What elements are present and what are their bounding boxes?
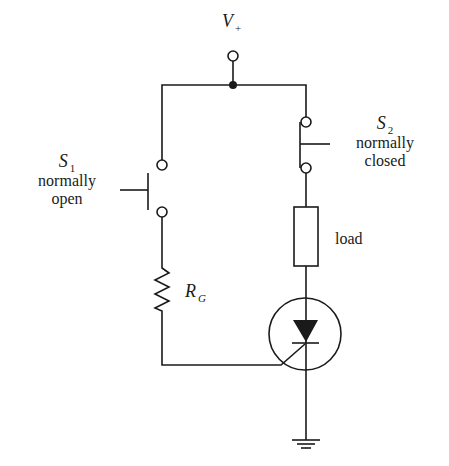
s2-symbol: S [377, 113, 386, 133]
top-wire [162, 85, 306, 160]
supply-label: V+ [222, 12, 241, 32]
rg-symbol: R [185, 281, 196, 301]
load-box [294, 207, 318, 298]
supply-symbol: V [222, 11, 233, 31]
junction-dot [229, 81, 237, 89]
s2-subscript: 2 [388, 124, 394, 136]
scr-thyristor [269, 298, 341, 440]
switch-s2 [300, 117, 330, 207]
s1-label: S1 normally open [22, 152, 112, 208]
supply-terminal [228, 51, 238, 61]
resistor-rg [155, 265, 305, 365]
s2-label: S2 normally closed [340, 114, 430, 170]
circuit-diagram [0, 0, 449, 466]
rg-subscript: G [198, 292, 206, 304]
supply-subscript: + [235, 22, 241, 34]
load-label: load [335, 230, 363, 248]
switch-s1 [120, 160, 167, 265]
s1-line2: open [22, 190, 112, 208]
s1-subscript: 1 [70, 162, 76, 174]
s2-line1: normally [340, 134, 430, 152]
s2-line2: closed [340, 152, 430, 170]
ground-symbol [292, 440, 320, 448]
rg-label: RG [185, 282, 206, 302]
s1-line1: normally [22, 172, 112, 190]
s1-symbol: S [59, 151, 68, 171]
